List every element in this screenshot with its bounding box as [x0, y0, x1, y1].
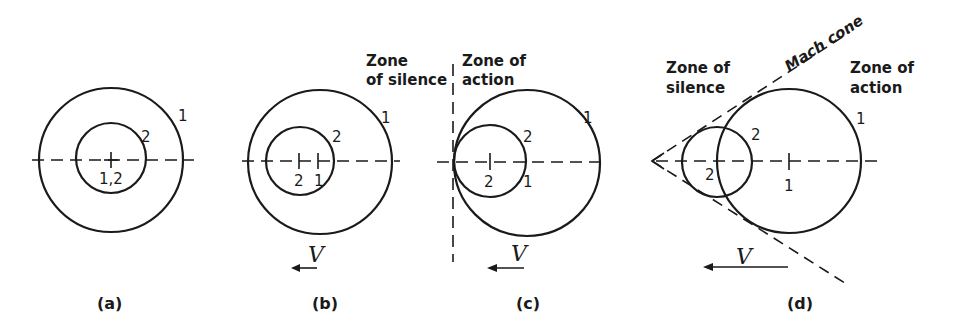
center-label-1: 1 [523, 173, 533, 191]
wavefront-2-label: 2 [523, 128, 533, 146]
wavefront-2-label: 2 [751, 126, 761, 144]
velocity-symbol: V [308, 242, 326, 267]
zone-of-action-label-line2: action [462, 71, 514, 89]
wavefront-2-label: 2 [141, 128, 151, 146]
zone-of-silence-label-line1: Zone of [666, 59, 731, 77]
zone-of-action-label-line1: Zone of [850, 59, 915, 77]
panel-caption: (a) [97, 294, 122, 313]
wavefront-1-label: 1 [583, 109, 593, 127]
panel-caption: (d) [787, 294, 813, 313]
wavefront-1 [248, 90, 392, 234]
zone-of-silence-label-line2: silence [666, 79, 725, 97]
center-label-2: 2 [294, 172, 304, 190]
panel-b: 1 2 2 1 V (b) [242, 90, 400, 313]
arrow-head-icon [703, 263, 713, 271]
panel-a: 1 2 1,2 (a) [32, 88, 194, 313]
zone-of-silence-label-line2: of silence [366, 71, 447, 89]
wavefront-2-label: 2 [332, 128, 342, 146]
panel-c: Zone of silence Zone of action 1 2 2 1 V… [366, 52, 608, 313]
center-label-1: 1 [314, 172, 324, 190]
zone-of-action-label-line2: action [850, 79, 902, 97]
zone-of-silence-label-line1: Zone [366, 52, 408, 70]
center-label-2: 2 [705, 166, 715, 184]
arrow-head-icon [291, 264, 300, 272]
panel-caption: (c) [516, 294, 540, 313]
panel-caption: (b) [312, 294, 338, 313]
center-label-1: 1 [784, 177, 794, 195]
wave-propagation-diagram: 1 2 1,2 (a) 1 2 2 1 V (b) Zone of silenc… [0, 0, 953, 335]
wavefront-1-label: 1 [856, 110, 866, 128]
wavefront-1-label: 1 [178, 107, 188, 125]
zone-of-action-label-line1: Zone of [462, 52, 527, 70]
arrow-head-icon [487, 264, 497, 272]
center-label-2: 2 [484, 173, 494, 191]
center-label: 1,2 [99, 170, 123, 188]
velocity-symbol: V [511, 241, 529, 266]
panel-d: Zone of silence Zone of action Mach cone… [652, 11, 915, 313]
wavefront-1-label: 1 [381, 109, 391, 127]
velocity-symbol: V [736, 244, 754, 269]
